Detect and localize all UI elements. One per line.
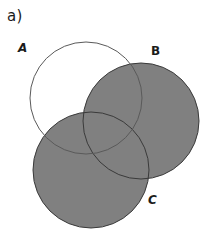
set-label-c: C: [148, 194, 157, 206]
set-label-b: B: [151, 45, 160, 57]
panel-label: a): [7, 9, 23, 24]
venn-diagram-figure: a) A B C: [0, 0, 210, 246]
set-label-a: A: [18, 42, 27, 54]
venn-diagram-canvas: [0, 0, 210, 246]
set-circle-c-fill: [33, 112, 149, 228]
